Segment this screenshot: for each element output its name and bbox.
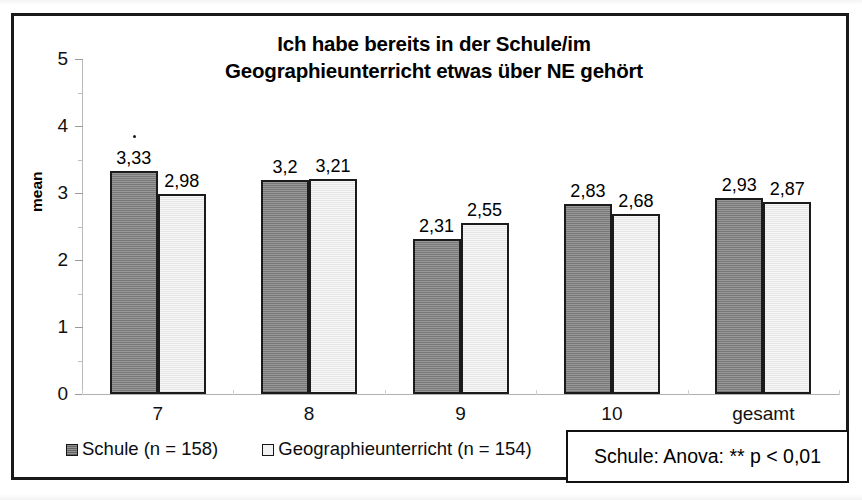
bar-value-label: 2,87: [770, 179, 805, 200]
legend-item-label: Schule (n = 158): [82, 438, 218, 460]
category-label: gesamt: [732, 403, 794, 425]
footnote-box: Schule: Anova: ** p < 0,01: [566, 430, 849, 483]
bar-value-label: 2,98: [164, 171, 199, 192]
bar-value-label: 3,21: [316, 156, 351, 177]
y-tick-label: 5: [28, 48, 81, 70]
y-tick-minor: [78, 93, 83, 94]
bar: [564, 204, 612, 394]
bar: [461, 223, 509, 394]
category-label: 8: [304, 403, 315, 425]
chart-screenshot: Ich habe bereits in der Schule/im Geogra…: [0, 0, 862, 500]
bar-value-label: 2,68: [618, 191, 653, 212]
y-tick-minor: [78, 227, 83, 228]
scan-edge-top: [0, 0, 862, 5]
bar-value-label: 2,93: [722, 175, 757, 196]
chart-frame: Ich habe bereits in der Schule/im Geogra…: [11, 13, 849, 480]
y-tick-minor: [78, 361, 83, 362]
category-separator: [82, 390, 83, 395]
category-label: 10: [601, 403, 622, 425]
plot-area: 012345 3,332,983,23,212,312,552,832,682,…: [82, 59, 839, 395]
legend-item-label: Geographieunterricht (n = 154): [278, 438, 532, 460]
legend-entries: Schule (n = 158)Geographieunterricht (n …: [66, 438, 532, 460]
legend-item: Schule (n = 158): [66, 438, 218, 460]
bar: [261, 180, 309, 394]
y-tick-minor: [78, 294, 83, 295]
significance-marker-icon: [133, 135, 136, 138]
y-tick-label: 4: [28, 115, 81, 137]
chart-title-line-1: Ich habe bereits in der Schule/im: [74, 30, 794, 57]
bar-value-label: 3,2: [273, 157, 298, 178]
footnote-text: Schule: Anova: ** p < 0,01: [594, 445, 821, 468]
bar: [309, 179, 357, 394]
category-separator: [233, 390, 234, 395]
x-axis-line: [82, 394, 839, 395]
bar-value-label: 2,31: [419, 216, 454, 237]
bar: [612, 214, 660, 394]
y-tick-label: 2: [28, 249, 81, 271]
category-separator: [385, 390, 386, 395]
y-tick-label: 3: [28, 182, 81, 204]
y-tick-label: 0: [28, 383, 81, 405]
legend-swatch-icon: [66, 444, 78, 456]
category-label: 7: [152, 403, 163, 425]
bar: [715, 198, 763, 394]
bar: [110, 171, 158, 394]
y-tick-label: 1: [28, 316, 81, 338]
category-label: 9: [455, 403, 466, 425]
bar-value-label: 2,55: [467, 200, 502, 221]
bar-value-label: 3,33: [116, 148, 151, 169]
category-separator: [536, 390, 537, 395]
bar-value-label: 2,83: [570, 181, 605, 202]
bar: [763, 202, 811, 394]
legend-swatch-icon: [262, 444, 274, 456]
legend-item: Geographieunterricht (n = 154): [262, 438, 532, 460]
y-tick-minor: [78, 160, 83, 161]
scan-edge-bottom: [0, 494, 862, 500]
bar: [158, 194, 206, 394]
category-separator: [839, 390, 840, 395]
category-separator: [688, 390, 689, 395]
bar: [413, 239, 461, 394]
